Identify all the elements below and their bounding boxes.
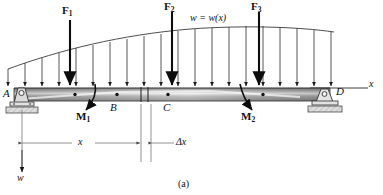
beam-body <box>14 88 330 101</box>
force-label-F3: F3 <box>251 0 261 14</box>
beam-diagram-figure: F1 F2 F3 w = w(x) M1 M2 A B C D x w x Δx… <box>0 0 383 195</box>
w-axis-label: w <box>17 172 24 183</box>
distributed-load-label: w = w(x) <box>190 12 226 23</box>
diagram-canvas <box>0 0 383 195</box>
dimension-label-x: x <box>78 136 82 147</box>
point-label-C: C <box>163 101 170 113</box>
point-label-B: B <box>110 101 117 113</box>
force-label-F1: F1 <box>62 4 72 18</box>
x-axis-label: x <box>369 78 373 89</box>
figure-caption: (a) <box>178 178 189 189</box>
point-label-D: D <box>336 85 344 97</box>
force-label-F2: F2 <box>164 0 174 14</box>
distributed-load-arrows <box>8 26 331 86</box>
dimension-lines <box>22 104 174 168</box>
point-label-A: A <box>3 87 10 99</box>
moment-label-M2: M2 <box>241 110 255 124</box>
moment-label-M1: M1 <box>76 110 90 124</box>
dimension-label-delta-x: Δx <box>176 136 186 147</box>
